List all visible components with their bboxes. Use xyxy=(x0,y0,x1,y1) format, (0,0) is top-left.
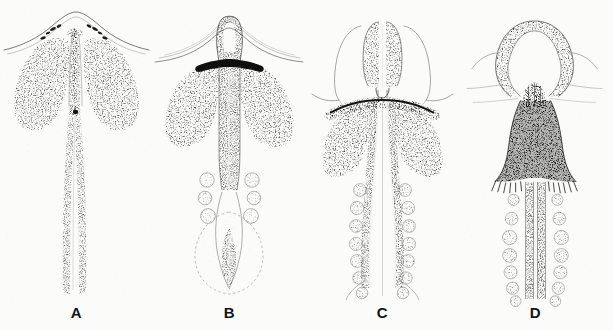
panel-label-c: C xyxy=(306,304,459,321)
panel-label-a: A xyxy=(0,304,153,321)
illustration-plate: A xyxy=(0,0,613,330)
figure-panel-d: D xyxy=(459,0,612,330)
panel-label-d: D xyxy=(459,304,612,321)
figure-panel-c: C xyxy=(306,0,459,330)
panel-label-b: B xyxy=(153,304,306,321)
figure-panel-a: A xyxy=(0,0,153,330)
figure-panel-b: B xyxy=(153,0,306,330)
